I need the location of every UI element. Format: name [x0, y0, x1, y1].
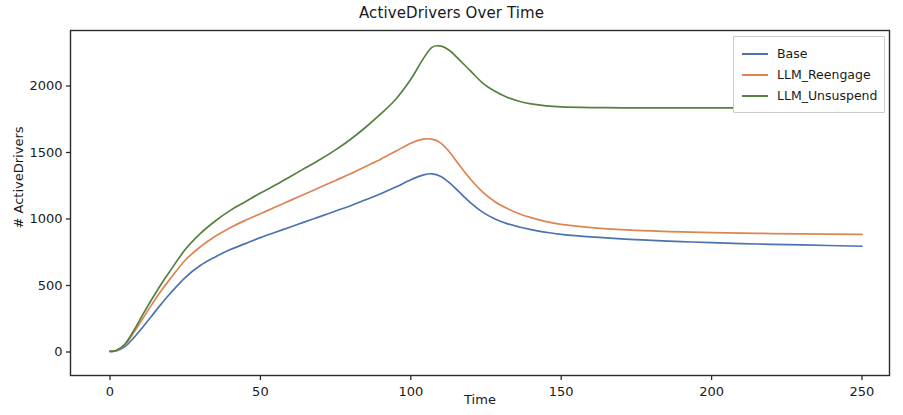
legend-color-swatch — [742, 53, 768, 55]
legend-color-swatch — [742, 95, 768, 97]
legend-label: LLM_Reengage — [777, 67, 871, 82]
series-line-base — [110, 174, 862, 352]
legend-label: LLM_Unsuspend — [777, 88, 877, 103]
series-line-llm-reengage — [110, 139, 862, 352]
legend-label: Base — [777, 46, 807, 61]
chart-figure: ActiveDrivers Over Time # ActiveDrivers … — [0, 0, 903, 415]
legend-item: LLM_Reengage — [742, 64, 876, 85]
legend-item: Base — [742, 43, 876, 64]
legend-color-swatch — [742, 74, 768, 76]
chart-legend: BaseLLM_ReengageLLM_Unsuspend — [733, 36, 885, 113]
legend-item: LLM_Unsuspend — [742, 85, 876, 106]
